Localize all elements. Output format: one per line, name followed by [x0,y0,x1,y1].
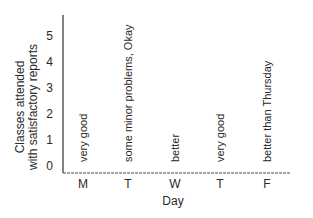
chart: Classes attendedwith satisfactory report… [0,0,313,218]
bar-annotation: very good [214,114,226,162]
y-tick-label: 4 [46,55,53,69]
y-tick-label: 3 [46,81,53,95]
y-axis-label: Classes attendedwith satisfactory report… [13,44,40,171]
x-tick-label: T [216,177,224,191]
y-tick-label: 0 [46,159,53,173]
x-tick-label: M [78,177,88,191]
bar-annotation: better than Thursday [261,60,273,162]
x-tick-label: T [124,177,132,191]
bar-annotation: better [169,134,181,162]
y-axis-label-line: Classes attended [13,61,27,154]
x-axis-label: Day [162,194,183,208]
x-tick-label: F [263,177,270,191]
y-tick-label: 2 [46,107,53,121]
y-axis-label-line: with satisfactory reports [26,44,40,171]
bar-annotation: very good [77,114,89,162]
y-tick-label: 1 [46,133,53,147]
x-tick-label: W [169,177,181,191]
bar-annotation: some minor problems, Okay [122,24,134,162]
y-tick-label: 5 [46,29,53,43]
